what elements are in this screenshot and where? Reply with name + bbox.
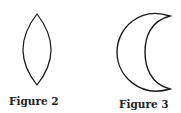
crescent-shape <box>117 14 170 92</box>
figure-3-caption: Figure 3 <box>119 99 169 110</box>
lens-shape <box>23 14 51 85</box>
figure-2-caption: Figure 2 <box>9 96 59 107</box>
